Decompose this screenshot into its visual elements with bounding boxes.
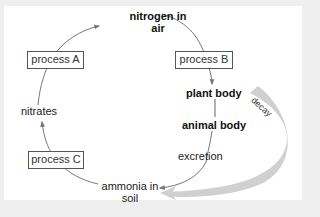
process-b-box: process B: [175, 51, 233, 69]
node-excretion: excretion: [178, 150, 223, 162]
ammonia-label-line1: ammonia in: [96, 180, 164, 192]
node-animal-body: animal body: [182, 119, 246, 131]
process-c-box: process C: [28, 151, 84, 169]
node-ammonia-in-soil: ammonia in soil: [96, 180, 164, 204]
nitrogen-label-line2: air: [122, 22, 194, 34]
decay-band: [163, 86, 288, 197]
process-a-box: process A: [27, 51, 84, 69]
node-nitrates: nitrates: [21, 105, 57, 117]
node-plant-body: plant body: [186, 87, 242, 99]
node-nitrogen-in-air: nitrogen in air: [122, 10, 194, 34]
ammonia-label-line2: soil: [96, 192, 164, 204]
nitrogen-label-line1: nitrogen in: [122, 10, 194, 22]
